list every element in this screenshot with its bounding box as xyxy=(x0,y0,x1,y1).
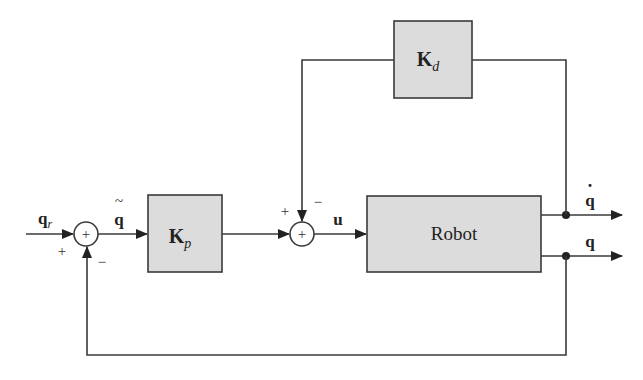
velocity-feedback-wire xyxy=(472,60,566,215)
robot-block: Robot xyxy=(367,196,541,272)
sum1-glyph: + xyxy=(82,226,90,242)
sum2-minus-sign: − xyxy=(314,194,322,210)
svg-text:~: ~ xyxy=(115,193,123,209)
summing-junction-1: + xyxy=(74,222,98,246)
pd-control-block-diagram: + + − Kp + + − Robot Kd qr ~ q u xyxy=(0,0,643,380)
error-signal-label: ~ q xyxy=(114,193,124,229)
summing-junction-2: + xyxy=(290,222,314,246)
velocity-signal-label: · q xyxy=(585,176,595,210)
sum2-plus-sign: + xyxy=(281,203,289,219)
svg-text:q: q xyxy=(114,210,124,229)
svg-text:q: q xyxy=(585,191,595,210)
kd-block: Kd xyxy=(394,21,472,98)
reference-signal-label: qr xyxy=(38,209,52,231)
kp-block: Kp xyxy=(148,195,222,272)
robot-label: Robot xyxy=(431,223,478,244)
sum1-minus-sign: − xyxy=(98,254,106,270)
position-signal-label: q xyxy=(585,232,595,251)
sum1-plus-sign: + xyxy=(58,243,66,259)
sum2-glyph: + xyxy=(298,226,306,242)
control-signal-label: u xyxy=(333,210,342,229)
